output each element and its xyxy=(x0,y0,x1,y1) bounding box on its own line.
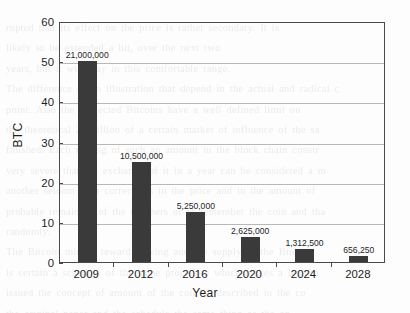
y-tick-label: 0 xyxy=(28,257,54,269)
y-tick-mark xyxy=(59,223,63,224)
bar-value-label: 21,000,000 xyxy=(66,50,109,60)
x-tick-label: 2028 xyxy=(345,268,370,280)
x-tick-mark xyxy=(331,263,332,267)
bar-value-label: 10,500,000 xyxy=(120,151,163,161)
y-tick-label: 60 xyxy=(28,16,54,28)
gridline xyxy=(60,144,384,145)
bar xyxy=(132,162,151,262)
bar-value-label: 2,625,000 xyxy=(231,226,269,236)
x-tick-label: 2012 xyxy=(128,268,153,280)
y-tick-mark xyxy=(59,22,63,23)
gridline xyxy=(60,224,384,225)
y-tick-label: 40 xyxy=(28,96,54,108)
y-tick-mark xyxy=(59,102,63,103)
gridline xyxy=(60,103,384,104)
bar xyxy=(78,61,97,262)
x-tick-mark xyxy=(113,263,114,267)
y-tick-label: 50 xyxy=(28,56,54,68)
gridline xyxy=(60,184,384,185)
y-tick-label: 30 xyxy=(28,137,54,149)
x-tick-label: 2016 xyxy=(182,268,207,280)
y-tick-mark xyxy=(59,143,63,144)
x-tick-label: 2009 xyxy=(73,268,98,280)
y-tick-mark xyxy=(59,183,63,184)
bar-value-label: 5,250,000 xyxy=(177,201,215,211)
bar-value-label: 656,250 xyxy=(343,245,374,255)
x-tick-mark xyxy=(276,263,277,267)
x-tick-label: 2024 xyxy=(291,268,316,280)
bar xyxy=(241,237,260,262)
bar xyxy=(186,212,205,262)
bar-chart-figure: BTC 0102030405060 21,000,00010,500,0005,… xyxy=(0,0,410,313)
x-axis-title: Year xyxy=(0,286,410,300)
gridline xyxy=(60,63,384,64)
y-axis-tick-labels: 0102030405060 xyxy=(22,22,54,263)
x-tick-mark xyxy=(222,263,223,267)
bar-value-label: 1,312,500 xyxy=(285,238,323,248)
bar xyxy=(295,249,314,262)
y-tick-mark xyxy=(59,62,63,63)
plot-area: 21,000,00010,500,0005,250,0002,625,0001,… xyxy=(59,22,385,263)
x-tick-mark xyxy=(168,263,169,267)
x-tick-label: 2020 xyxy=(236,268,261,280)
bar xyxy=(349,256,368,262)
y-tick-mark xyxy=(59,263,63,264)
y-tick-label: 10 xyxy=(28,217,54,229)
y-tick-label: 20 xyxy=(28,177,54,189)
